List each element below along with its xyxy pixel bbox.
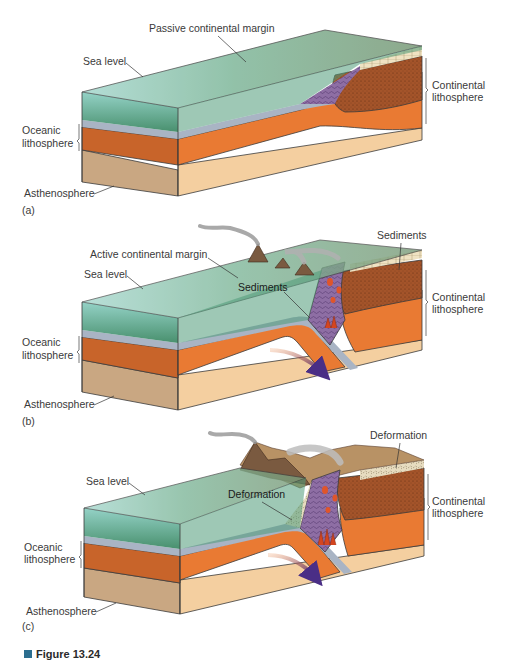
label-active-margin: Active continental margin xyxy=(90,248,207,260)
label-continental-2: lithosphere xyxy=(432,507,484,519)
label-asthenosphere: Asthenosphere xyxy=(24,187,95,199)
panel-label-a: (a) xyxy=(22,204,35,216)
label-sea-level: Sea level xyxy=(84,268,127,280)
label-continental-1: Continental xyxy=(432,79,485,91)
label-oceanic-2: lithosphere xyxy=(22,137,74,149)
label-deformation-inner: Deformation xyxy=(228,488,285,500)
label-sediments-top: Sediments xyxy=(377,229,427,241)
panel-a: Passive continental margin Sea level Con… xyxy=(22,22,485,216)
label-sea-level: Sea level xyxy=(83,55,126,67)
panel-label-b: (b) xyxy=(22,415,35,427)
figure-number: Figure 13.24 xyxy=(36,648,100,660)
label-asthenosphere: Asthenosphere xyxy=(26,605,97,617)
label-oceanic-1: Oceanic xyxy=(22,124,61,136)
label-sea-level: Sea level xyxy=(86,475,129,487)
label-passive-margin: Passive continental margin xyxy=(149,22,275,34)
label-deformation-top: Deformation xyxy=(370,429,427,441)
panel-c: Deformation Sea level Deformation Contin… xyxy=(22,429,485,632)
smoke-plume xyxy=(200,226,258,244)
label-continental-2: lithosphere xyxy=(432,91,484,103)
label-continental-1: Continental xyxy=(432,495,485,507)
panel-label-c: (c) xyxy=(22,620,34,632)
smoke-plume xyxy=(210,433,255,442)
panel-b: Sediments Active continental margin Sea … xyxy=(22,226,485,427)
label-oceanic-1: Oceanic xyxy=(22,336,61,348)
caption-marker-icon xyxy=(24,650,32,658)
figure-caption: Figure 13.24 xyxy=(24,648,100,660)
label-sediments-inner: Sediments xyxy=(238,281,288,293)
tectonic-margin-figure: Passive continental margin Sea level Con… xyxy=(0,0,505,665)
label-asthenosphere: Asthenosphere xyxy=(24,398,95,410)
label-continental-2: lithosphere xyxy=(432,303,484,315)
label-continental-1: Continental xyxy=(432,291,485,303)
label-oceanic-2: lithosphere xyxy=(24,553,76,565)
label-oceanic-2: lithosphere xyxy=(22,349,74,361)
label-oceanic-1: Oceanic xyxy=(24,541,63,553)
